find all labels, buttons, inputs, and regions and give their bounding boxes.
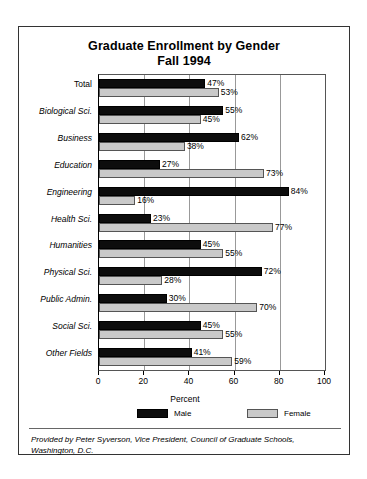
category-label-2: Business	[18, 133, 96, 143]
category-label-0: Total	[18, 79, 96, 89]
bar-female-9	[99, 330, 223, 339]
bar-female-8	[99, 303, 257, 312]
bar-value-label: 77%	[275, 223, 292, 232]
bar-value-label: 45%	[203, 321, 220, 330]
x-tick	[143, 371, 144, 375]
x-tick-label: 100	[317, 376, 331, 386]
legend-item-male: Male	[137, 409, 191, 418]
bar-value-label: 73%	[266, 169, 283, 178]
chart-title-line2: Fall 1994	[19, 54, 349, 69]
x-tick-label: 20	[138, 376, 147, 386]
bar-male-9	[99, 321, 201, 330]
category-label-3: Education	[18, 160, 96, 170]
x-tick	[188, 371, 189, 375]
x-tick	[324, 371, 325, 375]
x-axis-title: Percent	[19, 394, 351, 404]
legend-item-female: Female	[247, 409, 311, 418]
bar-female-1	[99, 115, 201, 124]
x-axis: 020406080100	[98, 371, 326, 393]
x-tick-label: 40	[184, 376, 193, 386]
bar-female-6	[99, 249, 223, 258]
bar-value-label: 41%	[194, 348, 211, 357]
legend-label-female: Female	[284, 409, 311, 418]
bar-value-label: 28%	[164, 276, 181, 285]
bar-value-label: 27%	[162, 160, 179, 169]
category-label-4: Engineering	[18, 187, 96, 197]
category-label-10: Other Fields	[18, 348, 96, 358]
bar-male-3	[99, 160, 160, 169]
bar-male-4	[99, 187, 289, 196]
bar-male-5	[99, 214, 151, 223]
bar-value-label: 59%	[234, 357, 251, 366]
category-label-9: Social Sci.	[18, 321, 96, 331]
category-label-7: Physical Sci.	[18, 267, 96, 277]
x-tick	[98, 371, 99, 375]
bar-female-3	[99, 169, 264, 178]
bar-value-label: 16%	[137, 196, 154, 205]
bar-value-label: 55%	[225, 330, 242, 339]
footnote: Provided by Peter Syverson, Vice Preside…	[31, 434, 331, 456]
bar-female-7	[99, 276, 162, 285]
bar-value-label: 38%	[187, 142, 204, 151]
bar-male-2	[99, 133, 239, 142]
x-tick-label: 80	[274, 376, 283, 386]
bar-value-label: 62%	[241, 133, 258, 142]
divider	[29, 428, 341, 429]
chart-card: Graduate Enrollment by Gender Fall 1994 …	[18, 26, 350, 455]
bar-value-label: 30%	[169, 294, 186, 303]
legend-swatch-male	[137, 409, 168, 418]
bar-female-2	[99, 142, 185, 151]
category-label-5: Health Sci.	[18, 214, 96, 224]
bar-value-label: 45%	[203, 240, 220, 249]
chart-title: Graduate Enrollment by Gender Fall 1994	[19, 39, 349, 69]
bar-female-10	[99, 357, 232, 366]
x-tick-label: 0	[96, 376, 101, 386]
category-label-8: Public Admin.	[18, 294, 96, 304]
bar-female-0	[99, 88, 219, 97]
legend-label-male: Male	[174, 409, 191, 418]
bar-value-label: 55%	[225, 106, 242, 115]
legend: MaleFemale	[19, 409, 351, 423]
bar-male-0	[99, 79, 205, 88]
bar-value-label: 70%	[259, 303, 276, 312]
bar-female-4	[99, 196, 135, 205]
bar-value-label: 84%	[291, 187, 308, 196]
bar-male-6	[99, 240, 201, 249]
legend-swatch-female	[247, 409, 278, 418]
x-tick-label: 60	[229, 376, 238, 386]
bar-value-label: 72%	[264, 267, 281, 276]
bar-male-10	[99, 348, 192, 357]
bar-female-5	[99, 223, 273, 232]
bar-value-label: 45%	[203, 115, 220, 124]
x-tick	[234, 371, 235, 375]
bar-value-label: 53%	[221, 88, 238, 97]
chart-title-line1: Graduate Enrollment by Gender	[88, 39, 280, 53]
bar-male-8	[99, 294, 167, 303]
plot-area: 47%53%55%45%62%38%27%73%84%16%23%77%45%5…	[98, 74, 326, 371]
x-tick	[279, 371, 280, 375]
category-label-6: Humanities	[18, 240, 96, 250]
category-label-1: Biological Sci.	[18, 106, 96, 116]
bar-value-label: 55%	[225, 249, 242, 258]
bar-value-label: 23%	[153, 214, 170, 223]
